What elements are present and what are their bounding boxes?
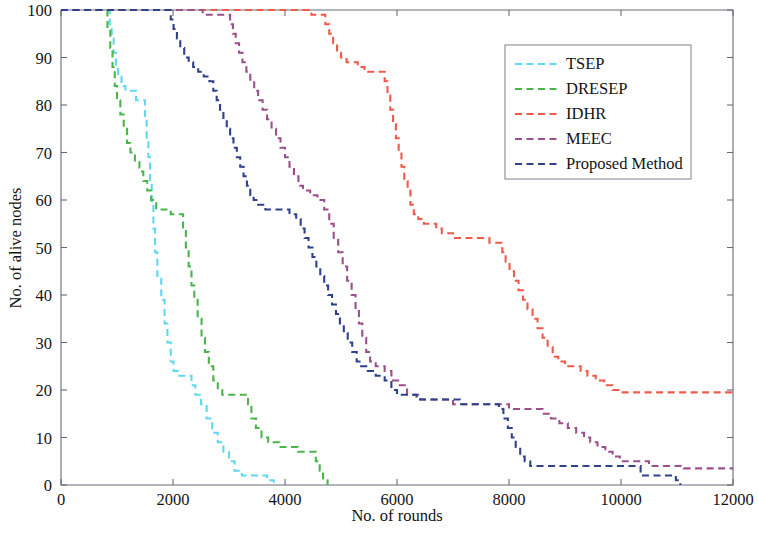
x-tick-label: 0 xyxy=(57,490,65,509)
legend-label-meec: MEEC xyxy=(566,129,612,148)
x-tick-label: 4000 xyxy=(269,490,302,509)
x-tick-label: 8000 xyxy=(493,490,526,509)
legend-label-proposed-method: Proposed Method xyxy=(566,154,684,173)
legend-label-dresep: DRESEP xyxy=(566,79,627,98)
y-axis-title: No. of alive nodes xyxy=(6,188,25,309)
network-lifetime-chart: 020004000600080001000012000 010203040506… xyxy=(0,0,758,533)
y-tick-label: 10 xyxy=(36,429,53,448)
y-tick-label: 40 xyxy=(36,286,53,305)
y-tick-label: 70 xyxy=(36,144,53,163)
y-tick-label: 90 xyxy=(36,49,53,68)
x-tick-label: 10000 xyxy=(600,490,641,509)
legend-label-idhr: IDHR xyxy=(566,104,606,123)
x-axis-title: No. of rounds xyxy=(351,506,442,525)
chart-legend: TSEPDRESEPIDHRMEECProposed Method xyxy=(505,45,691,179)
y-tick-label: 50 xyxy=(36,239,53,258)
y-tick-label: 30 xyxy=(36,334,53,353)
y-tick-label: 100 xyxy=(27,1,52,20)
y-tick-label: 20 xyxy=(36,381,53,400)
y-tick-label: 60 xyxy=(36,191,53,210)
y-tick-label: 0 xyxy=(44,476,52,495)
x-tick-label: 2000 xyxy=(157,490,190,509)
x-tick-label: 12000 xyxy=(712,490,753,509)
chart-svg: 020004000600080001000012000 010203040506… xyxy=(0,0,758,533)
y-tick-label: 80 xyxy=(36,96,53,115)
legend-label-tsep: TSEP xyxy=(566,54,605,73)
